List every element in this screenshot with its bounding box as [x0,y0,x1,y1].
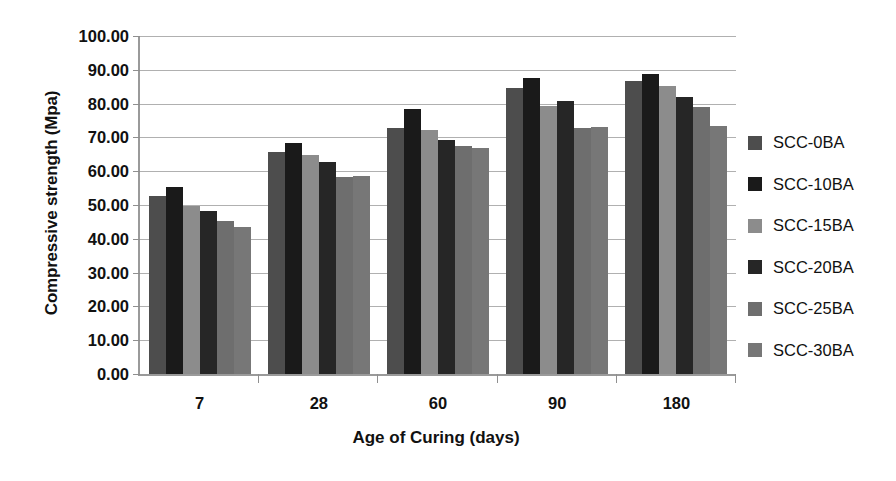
legend-swatch-icon [748,302,762,316]
y-axis-tick [133,36,140,37]
legend-label: SCC-10BA [773,175,854,194]
bar [540,106,557,374]
bar [472,148,489,374]
bar [183,206,200,374]
bar [523,78,540,374]
legend-label: SCC-15BA [773,216,854,235]
bar [353,176,370,374]
bar-group: 60 [378,36,497,374]
bar [149,196,166,374]
bar [659,86,676,374]
bar [234,227,251,374]
y-axis-label: 70.00 [88,128,129,147]
bar [591,127,608,374]
legend-label: SCC-0BA [773,133,845,152]
x-axis-label: 7 [140,394,259,413]
y-axis-tick [133,306,140,307]
legend-swatch-icon [748,177,762,191]
legend-item: SCC-0BA [748,122,894,164]
y-axis-label: 0.00 [97,365,129,384]
y-axis-label: 90.00 [88,60,129,79]
legend-item: SCC-20BA [748,247,894,289]
bar [336,177,353,374]
bar [302,155,319,374]
legend-swatch-icon [748,343,762,357]
bar [217,221,234,374]
bar-groups: 7286090180 [140,36,736,374]
bar [421,130,438,374]
x-axis-tick [497,374,498,383]
y-axis-label: 60.00 [88,162,129,181]
y-axis-tick [133,171,140,172]
y-axis-label: 30.00 [88,263,129,282]
x-axis-title: Age of Curing (days) [138,428,734,448]
bar [506,88,523,374]
y-axis-label: 80.00 [88,94,129,113]
bar [455,146,472,374]
bar-group: 180 [617,36,736,374]
bar-group: 90 [498,36,617,374]
x-axis-label: 90 [498,394,617,413]
legend-label: SCC-25BA [773,299,854,318]
y-axis-tick [133,70,140,71]
bar [404,109,421,374]
x-axis-label: 60 [378,394,497,413]
y-axis-label: 100.00 [79,27,129,46]
y-axis-tick [133,340,140,341]
y-axis-tick [133,205,140,206]
y-axis-tick [133,374,140,375]
bar [268,152,285,374]
bar [319,162,336,374]
legend-label: SCC-30BA [773,341,854,360]
bar [557,101,574,374]
bar [693,107,710,374]
bar [285,143,302,374]
y-axis-tick [133,104,140,105]
y-axis-label: 10.00 [88,331,129,350]
bar [387,128,404,374]
bar [710,126,727,374]
legend-label: SCC-20BA [773,258,854,277]
legend: SCC-0BASCC-10BASCC-15BASCC-20BASCC-25BAS… [748,122,894,371]
y-axis-title: Compressive strength (Mpa) [42,38,62,368]
x-axis-tick [735,374,736,383]
bar-group: 28 [259,36,378,374]
legend-item: SCC-25BA [748,288,894,330]
legend-swatch-icon [748,219,762,233]
bar [200,211,217,374]
x-axis-tick [377,374,378,383]
y-axis-label: 20.00 [88,297,129,316]
bar [166,187,183,374]
y-axis-tick [133,137,140,138]
y-axis-tick [133,273,140,274]
legend-item: SCC-15BA [748,205,894,247]
bar [676,97,693,374]
x-axis-tick [616,374,617,383]
legend-item: SCC-30BA [748,330,894,372]
legend-swatch-icon [748,260,762,274]
bar [625,81,642,374]
y-axis-label: 50.00 [88,196,129,215]
bar [574,128,591,374]
bar-chart: Compressive strength (Mpa) 100.0090.0080… [0,0,896,481]
legend-swatch-icon [748,136,762,150]
x-axis-label: 180 [617,394,736,413]
x-axis-label: 28 [259,394,378,413]
bar [438,140,455,374]
plot-area: 100.0090.0080.0070.0060.0050.0040.0030.0… [138,36,736,376]
bar [642,74,659,374]
bar-group: 7 [140,36,259,374]
y-axis-label: 40.00 [88,229,129,248]
legend-item: SCC-10BA [748,164,894,206]
x-axis-tick [258,374,259,383]
y-axis-tick [133,239,140,240]
